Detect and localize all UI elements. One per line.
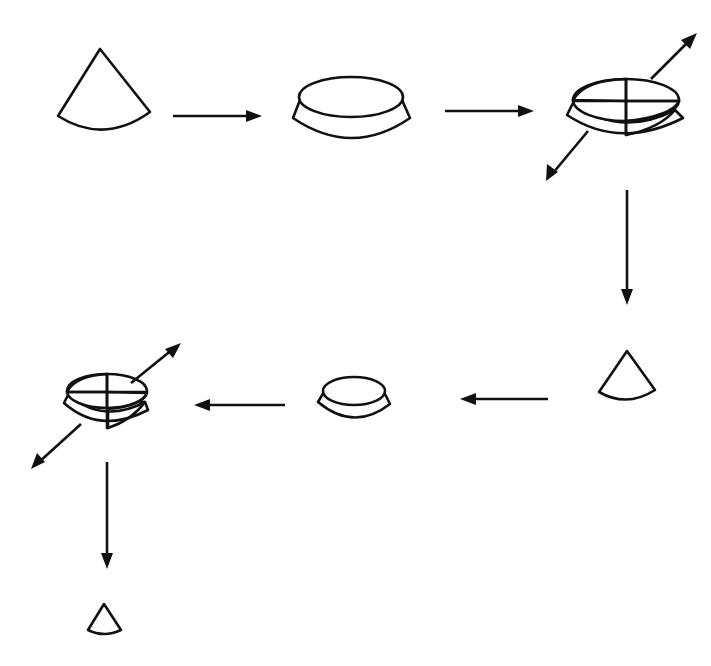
- cone-large: [58, 49, 150, 130]
- quartered-pile-2: [64, 374, 148, 428]
- cone-medium: [599, 351, 655, 400]
- arrow-left-1: [460, 393, 548, 405]
- removal-arrow-up-right-1: [651, 33, 697, 79]
- arrow-down-2: [101, 462, 113, 569]
- removal-arrow-down-left-2: [31, 424, 81, 469]
- removal-arrow-down-left-1: [546, 131, 588, 181]
- cone-and-quartering-diagram: [0, 0, 711, 666]
- arrow-right-1: [173, 110, 262, 122]
- arrow-right-2: [445, 105, 534, 117]
- arrow-left-2: [194, 399, 285, 411]
- flattened-pile-2: [318, 377, 390, 418]
- cone-small: [88, 604, 121, 634]
- flattened-pile-1: [293, 77, 410, 138]
- arrow-down-1: [621, 190, 633, 305]
- removal-arrow-up-right-2: [131, 343, 181, 383]
- quartered-pile-1: [567, 79, 683, 135]
